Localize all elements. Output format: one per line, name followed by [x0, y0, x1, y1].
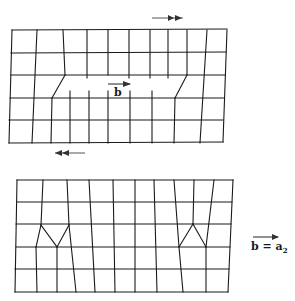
lattice-line	[154, 180, 157, 292]
lattice-line	[15, 180, 17, 292]
lattice-line	[174, 180, 179, 247]
lattice-line	[193, 224, 206, 247]
lattice-line	[51, 98, 52, 143]
lattice-line	[89, 180, 95, 292]
bottom-shear-arrow-icon	[55, 150, 85, 156]
lattice-line	[41, 225, 57, 247]
lattice-line	[113, 180, 115, 292]
bottom-lattice-grid	[15, 180, 233, 292]
lattice-line	[228, 180, 233, 292]
lattice-line	[11, 52, 226, 53]
lattice-line	[32, 30, 37, 143]
lattice-line	[57, 225, 69, 247]
lattice-line	[9, 30, 12, 143]
lattice-line	[52, 75, 65, 98]
lattice-line	[12, 29, 227, 30]
lattice-line	[193, 180, 194, 224]
lattice-line	[36, 247, 37, 292]
lattice-line	[206, 180, 214, 247]
lattice-line	[174, 98, 175, 143]
lattice-line	[36, 225, 41, 247]
lattice-line	[223, 30, 227, 142]
lattice-line	[175, 75, 187, 98]
top-shear-arrow-icon	[152, 15, 183, 21]
lattice-line	[9, 142, 223, 143]
lattice-line	[69, 225, 76, 292]
dislocation-diagram	[0, 0, 295, 301]
lattice-line	[200, 30, 207, 143]
lattice-line	[179, 224, 193, 247]
legend-label: b = a2	[251, 240, 288, 255]
burgers-vector-label: b	[114, 86, 122, 99]
